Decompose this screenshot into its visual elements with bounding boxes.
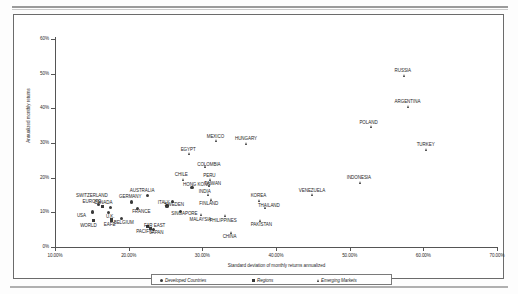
legend-marker-square-icon: [252, 279, 255, 282]
x-tick-mark: [423, 247, 424, 251]
x-tick-label: 70.00%: [475, 253, 518, 258]
data-point-label: FRANCE: [132, 209, 150, 214]
legend-item-triangle[interactable]: Emerging Markets: [317, 277, 357, 284]
data-point-label: SWEDEN: [165, 202, 184, 207]
data-point-label: RUSSIA: [395, 68, 411, 73]
data-point-label: CHILE: [175, 172, 188, 177]
y-tick-label-wrap: 60%: [14, 36, 49, 43]
y-tick-label-wrap: 20%: [14, 175, 49, 182]
page-top-rule: [12, 6, 508, 8]
page-bottom-rule: [10, 286, 508, 288]
data-point-label: INDIA: [199, 189, 211, 194]
x-tick-label: 10.00%: [33, 253, 77, 258]
data-point-label: PHILIPPINES: [209, 218, 236, 223]
legend-marker-triangle-icon: [317, 279, 319, 282]
data-point-label: TAIWAN: [204, 181, 221, 186]
data-point-marker-triangle: [215, 139, 217, 142]
data-point-label: EAFE: [104, 222, 116, 227]
chart-frame: 0%10%20%30%40%50%60% 10.00%20.00%30.00%4…: [13, 14, 504, 279]
data-point-label: PERU: [203, 173, 215, 178]
x-tick-label: 20.00%: [107, 253, 151, 258]
data-point-marker-triangle: [182, 178, 184, 181]
scanned-page: 0%10%20%30%40%50%60% 10.00%20.00%30.00%4…: [0, 0, 518, 294]
legend-label: Emerging Markets: [321, 278, 357, 283]
data-point-marker-square: [110, 218, 113, 221]
data-point-label: SWITZERLAND: [76, 193, 108, 198]
data-point-label: EUROPE: [83, 199, 102, 204]
y-tick-label-wrap: 10%: [14, 209, 49, 216]
legend-item-circle[interactable]: Developed Countries: [160, 277, 206, 284]
y-tick-label-wrap: 50%: [14, 71, 49, 78]
x-tick-mark: [129, 247, 130, 251]
data-point-marker-square: [101, 205, 104, 208]
chart-legend: Developed CountriesRegionsEmerging Marke…: [151, 274, 392, 285]
data-point-marker-triangle: [407, 105, 409, 108]
legend-label: Developed Countries: [165, 278, 206, 283]
data-point-marker-triangle: [403, 74, 405, 77]
x-tick-mark: [350, 247, 351, 251]
data-point-marker-circle: [109, 206, 112, 209]
x-tick-mark: [497, 247, 498, 251]
data-point-label: BELGIUM: [114, 220, 134, 225]
x-axis-label: Standard deviation of monthly returns an…: [55, 263, 498, 268]
data-point-label: KOREA: [251, 193, 267, 198]
data-point-marker-circle: [130, 200, 133, 203]
legend-item-square[interactable]: Regions: [252, 277, 273, 284]
page-top-rule-secondary: [12, 9, 508, 10]
data-point-label: TURKEY: [417, 142, 435, 147]
y-tick-label: 10%: [19, 209, 49, 214]
data-point-marker-triangle: [200, 213, 202, 216]
data-point-label: AUSTRALIA: [130, 188, 155, 193]
data-point-label: GERMANY: [119, 194, 141, 199]
data-point-label: MEXICO: [207, 134, 224, 139]
y-tick-label: 40%: [19, 105, 49, 110]
data-point-label: MALAYSIA: [190, 217, 212, 222]
y-tick-label-wrap: 0%: [14, 244, 49, 251]
y-tick-label-wrap: 40%: [14, 105, 49, 112]
data-point-marker-triangle: [207, 193, 209, 196]
data-point-marker-triangle: [359, 181, 361, 184]
x-tick-label: 50.00%: [328, 253, 372, 258]
data-point-label: HUNGARY: [235, 136, 257, 141]
data-point-label: WORLD: [80, 223, 97, 228]
data-point-label: USA: [77, 213, 86, 218]
y-tick-label: 60%: [19, 36, 49, 41]
y-tick-label: 20%: [19, 175, 49, 180]
data-point-label: ARGENTINA: [395, 99, 421, 104]
x-tick-label: 30.00%: [180, 253, 224, 258]
data-point-label: FAR EAST: [144, 223, 165, 228]
data-point-marker-triangle: [245, 142, 247, 145]
data-point-marker-square: [92, 219, 95, 222]
data-point-marker-triangle: [258, 199, 260, 202]
data-point-label: COLOMBIA: [197, 162, 220, 167]
legend-label: Regions: [257, 278, 273, 283]
x-tick-label: 60.00%: [401, 253, 445, 258]
data-point-marker-triangle: [370, 125, 372, 128]
y-tick-label: 30%: [19, 140, 49, 145]
data-point-label: PAKISTAN: [251, 222, 272, 227]
x-tick-mark: [202, 247, 203, 251]
y-tick-label-wrap: 30%: [14, 140, 49, 147]
x-tick-label: 40.00%: [254, 253, 298, 258]
data-point-marker-triangle: [425, 148, 427, 151]
y-tick-label: 50%: [19, 71, 49, 76]
data-point-label: THAILAND: [258, 203, 280, 208]
x-tick-mark: [55, 247, 56, 251]
x-tick-mark: [276, 247, 277, 251]
data-point-label: FINLAND: [199, 201, 218, 206]
data-point-label: INDONESIA: [347, 175, 371, 180]
data-point-marker-triangle: [311, 193, 313, 196]
data-point-label: SINGAPORE: [171, 211, 197, 216]
data-point-label: CHINA: [223, 234, 237, 239]
legend-marker-circle-icon: [160, 279, 163, 282]
data-point-marker-circle: [91, 210, 94, 213]
data-point-label: EGYPT: [181, 147, 196, 152]
data-point-label: VENEZUELA: [299, 188, 325, 193]
y-axis-label: Annualized monthly returns: [26, 71, 31, 161]
y-tick-label: 0%: [19, 244, 49, 249]
data-point-marker-triangle: [188, 152, 190, 155]
data-point-label: POLAND: [359, 120, 377, 125]
